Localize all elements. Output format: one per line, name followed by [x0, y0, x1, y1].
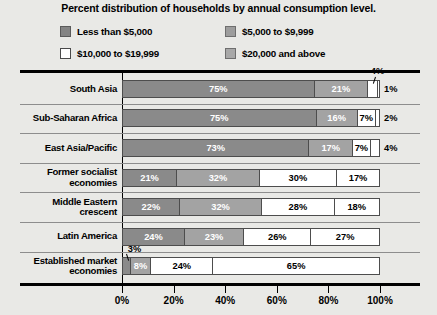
bar-segment[interactable]: 28%: [261, 198, 333, 216]
row-label: Latin America: [0, 231, 122, 242]
axis-tick: [277, 286, 278, 293]
bar-segment[interactable]: 24%: [122, 228, 184, 246]
row-label: Sub-Saharan Africa: [0, 113, 122, 124]
row-separator: [20, 163, 420, 164]
bar-segment[interactable]: 22%: [122, 198, 179, 216]
row-label: Established marketeconomies: [0, 256, 122, 277]
legend-swatch-icon: [60, 26, 71, 37]
legend-label: $5,000 to $9,999: [242, 26, 313, 37]
bar-area: 8%24%65%3%: [122, 257, 380, 275]
legend-swatch-icon: [225, 48, 236, 59]
bar-area: 21%32%30%17%: [122, 169, 380, 187]
axis-tick-label: 80%: [318, 295, 338, 306]
bar-area: 75%16%7%2%: [122, 109, 380, 127]
row-label: Middle Easterncrescent: [0, 197, 122, 218]
bar-segment[interactable]: 32%: [176, 169, 259, 187]
legend-swatch-icon: [225, 26, 236, 37]
bar-area: 75%21%1%4%: [122, 80, 380, 98]
bar-segment[interactable]: 21%: [122, 169, 176, 187]
stacked-bar[interactable]: 73%17%7%: [122, 139, 380, 157]
bar-segment[interactable]: 18%: [334, 198, 380, 216]
row-separator: [20, 252, 420, 253]
segment-outside-label: 2%: [380, 109, 397, 127]
callout-label: 3%: [128, 244, 141, 254]
legend-label: $20,000 and above: [242, 48, 325, 59]
legend-swatch-icon: [60, 48, 71, 59]
chart-row: Established marketeconomies8%24%65%3%: [0, 252, 437, 282]
bar-segment[interactable]: 16%: [316, 109, 357, 127]
row-separator: [20, 104, 420, 105]
axis-tick-label: 60%: [267, 295, 287, 306]
chart-row: Latin America24%23%26%27%: [0, 222, 437, 252]
stacked-bar[interactable]: 75%16%7%: [122, 109, 380, 127]
chart-row: Middle Easterncrescent22%32%28%18%: [0, 192, 437, 222]
bar-segment[interactable]: 32%: [179, 198, 262, 216]
bar-segment[interactable]: 26%: [243, 228, 310, 246]
chart-row: South Asia75%21%1%4%: [0, 74, 437, 104]
chart-row: Sub-Saharan Africa75%16%7%2%: [0, 104, 437, 134]
axis-tick-label: 100%: [367, 295, 393, 306]
bar-segment[interactable]: 27%: [310, 228, 380, 246]
chart-row: Former socialisteconomies21%32%30%17%: [0, 163, 437, 193]
bar-segment[interactable]: [370, 139, 380, 157]
legend-item-less-than-5000: Less than $5,000: [60, 20, 225, 42]
axis-tick: [174, 286, 175, 293]
chart-legend: Less than $5,000 $5,000 to $9,999 $10,00…: [60, 20, 390, 64]
axis-tick: [225, 286, 226, 293]
bar-segment[interactable]: 21%: [314, 80, 368, 98]
row-label: South Asia: [0, 84, 122, 95]
chart-container: Percent distribution of households by an…: [0, 0, 437, 315]
row-separator: [20, 192, 420, 193]
row-separator: [20, 133, 420, 134]
bar-segment[interactable]: 8%: [130, 257, 151, 275]
legend-item-5000-to-9999: $5,000 to $9,999: [225, 20, 390, 42]
axis-tick-label: 40%: [215, 295, 235, 306]
segment-outside-label: 1%: [380, 80, 397, 98]
bar-segment[interactable]: 24%: [150, 257, 212, 275]
bar-area: 73%17%7%4%: [122, 139, 380, 157]
axis-tick: [328, 286, 329, 293]
bar-segment[interactable]: 17%: [308, 139, 351, 157]
axis-tick: [380, 286, 381, 293]
row-separator: [20, 222, 420, 223]
bar-segment[interactable]: 7%: [352, 139, 370, 157]
row-label: Former socialisteconomies: [0, 167, 122, 188]
legend-label: Less than $5,000: [77, 26, 152, 37]
bar-segment[interactable]: 30%: [259, 169, 336, 187]
bar-segment[interactable]: 75%: [122, 80, 314, 98]
stacked-bar[interactable]: 21%32%30%17%: [122, 169, 380, 187]
callout-label: 4%: [371, 66, 384, 76]
chart-row: East Asia/Pacific73%17%7%4%: [0, 133, 437, 163]
legend-item-10000-to-19999: $10,000 to $19,999: [60, 42, 225, 64]
stacked-bar[interactable]: 22%32%28%18%: [122, 198, 380, 216]
chart-title: Percent distribution of households by an…: [0, 2, 437, 14]
segment-outside-label: 4%: [380, 139, 397, 157]
bar-segment[interactable]: 65%: [212, 257, 380, 275]
plot-top-rule: [20, 70, 420, 73]
bar-area: 22%32%28%18%: [122, 198, 380, 216]
x-axis: 0%20%40%60%80%100%: [0, 286, 437, 315]
stacked-bar[interactable]: 75%21%: [122, 80, 380, 98]
legend-item-20000-and-above: $20,000 and above: [225, 42, 390, 64]
axis-tick-label: 20%: [164, 295, 184, 306]
stacked-bar[interactable]: 24%23%26%27%: [122, 228, 380, 246]
bar-segment[interactable]: 75%: [122, 109, 316, 127]
stacked-bar[interactable]: 8%24%65%: [122, 257, 380, 275]
bar-segment[interactable]: 23%: [184, 228, 243, 246]
bar-segment[interactable]: 7%: [357, 109, 375, 127]
chart-rows: South Asia75%21%1%4%Sub-Saharan Africa75…: [0, 74, 437, 281]
axis-tick-label: 0%: [115, 295, 129, 306]
axis-tick: [122, 286, 123, 293]
bar-segment[interactable]: 17%: [336, 169, 380, 187]
row-label: East Asia/Pacific: [0, 143, 122, 154]
legend-label: $10,000 to $19,999: [77, 48, 159, 59]
bar-segment[interactable]: 73%: [122, 139, 308, 157]
bar-area: 24%23%26%27%: [122, 228, 380, 246]
